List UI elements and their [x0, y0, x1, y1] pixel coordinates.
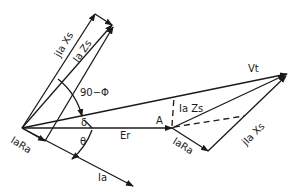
- jiaxs-left-phasor: [22, 14, 95, 128]
- iara-left-phasor: [22, 128, 45, 141]
- a-point-label: A: [156, 115, 163, 126]
- dashed-vertical-helper: [172, 97, 174, 126]
- er-label: Er: [120, 130, 131, 141]
- top-connector: [95, 14, 112, 25]
- theta-label: θ: [80, 136, 86, 147]
- jiaxs-right-label: jIa Xs: [239, 120, 267, 148]
- iara-left-label: IaRa: [9, 134, 33, 155]
- angle-90-phi-label: 90−Φ: [80, 87, 109, 98]
- ia-label: Ia: [98, 172, 107, 183]
- iazs-right-label: Ia Zs: [179, 103, 203, 114]
- vt-label: Vt: [248, 63, 259, 74]
- jiaxs-left-parallel: [45, 27, 113, 141]
- phasor-diagram: Vt Er Ia A Ia Zs jIa Xs IaRa IaRa jIa Xs…: [0, 0, 303, 196]
- delta-label: δ: [81, 117, 87, 128]
- iara-right-label: IaRa: [171, 135, 195, 156]
- iazs-right-phasor: [172, 75, 285, 128]
- iazs-left-label: Ia Zs: [71, 38, 94, 64]
